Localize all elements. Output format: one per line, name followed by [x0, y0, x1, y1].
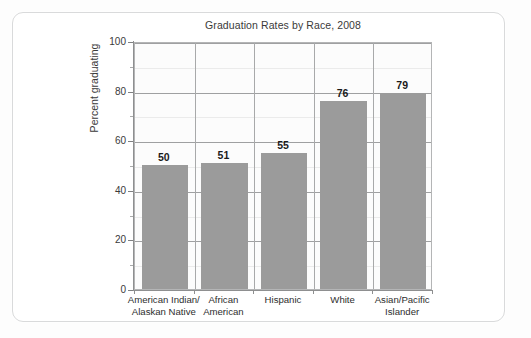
bar: [201, 163, 247, 289]
y-tick-mark: [128, 191, 133, 192]
bar: [380, 93, 426, 289]
y-tick-label: 60: [96, 135, 126, 146]
y-tick-label: 40: [96, 185, 126, 196]
bar-value-label: 79: [372, 79, 432, 91]
bar-value-label: 76: [313, 87, 373, 99]
gridline-minor: [135, 68, 431, 69]
category-label: Asian/PacificIslander: [364, 294, 440, 317]
y-tick-label: 100: [96, 36, 126, 47]
bar: [261, 153, 307, 289]
category-label-line: Islander: [364, 306, 440, 318]
bar-chart: Graduation Rates by Race, 2008 Percent g…: [0, 0, 531, 338]
category-separator: [314, 43, 315, 289]
y-tick-mark: [128, 240, 133, 241]
category-separator: [195, 43, 196, 289]
category-label-line: Asian/Pacific: [364, 294, 440, 306]
y-tick-mark-minor: [130, 216, 133, 217]
bar-value-label: 55: [253, 139, 313, 151]
category-label-line: American: [186, 306, 262, 318]
y-tick-mark: [128, 290, 133, 291]
y-tick-mark: [128, 92, 133, 93]
bar-value-label: 50: [134, 151, 194, 163]
y-tick-mark-minor: [130, 116, 133, 117]
y-tick-label: 0: [96, 284, 126, 295]
category-separator: [254, 43, 255, 289]
y-axis-line: [133, 41, 134, 291]
chart-title: Graduation Rates by Race, 2008: [134, 19, 432, 31]
y-tick-label: 80: [96, 86, 126, 97]
bar: [320, 101, 366, 289]
y-tick-mark-minor: [130, 67, 133, 68]
bar: [142, 165, 188, 289]
gridline-major: [135, 43, 431, 44]
y-tick-mark: [128, 141, 133, 142]
x-axis-line: [133, 290, 433, 291]
y-tick-label: 20: [96, 234, 126, 245]
y-tick-mark-minor: [130, 166, 133, 167]
y-tick-mark: [128, 42, 133, 43]
y-tick-mark-minor: [130, 265, 133, 266]
bar-value-label: 51: [194, 149, 254, 161]
